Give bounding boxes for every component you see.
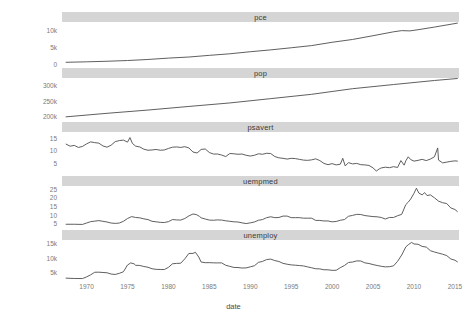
panel-strip-psavert: psavert <box>62 122 459 132</box>
panel-body-pop <box>62 78 459 118</box>
panel-body-unemploy <box>62 240 459 280</box>
y-tick-pop-2: 300k <box>0 81 57 88</box>
x-axis-title: date <box>0 302 467 311</box>
y-tick-uempmed-4: 25 <box>0 185 57 192</box>
facet-line-chart: date pce05k10kpop200k250k300kpsavert5101… <box>0 0 467 313</box>
x-tick-1995: 1995 <box>284 283 298 290</box>
panel-strip-uempmed: uempmed <box>62 176 459 186</box>
series-line-pop <box>66 79 457 117</box>
panel-strip-pop: pop <box>62 68 459 78</box>
y-tick-pop-1: 250k <box>0 97 57 104</box>
y-tick-pce-1: 5k <box>0 44 57 51</box>
y-tick-pop-0: 200k <box>0 113 57 120</box>
y-tick-unemploy-1: 10k <box>0 254 57 261</box>
x-tick-2010: 2010 <box>407 283 421 290</box>
y-tick-uempmed-3: 20 <box>0 194 57 201</box>
panel-label-uempmed: uempmed <box>243 177 278 186</box>
panel-strip-pce: pce <box>62 12 459 22</box>
y-tick-uempmed-1: 10 <box>0 211 57 218</box>
x-tick-1975: 1975 <box>120 283 134 290</box>
series-line-pce <box>66 23 457 62</box>
series-line-psavert <box>66 138 457 171</box>
y-tick-psavert-2: 15 <box>0 134 57 141</box>
y-tick-psavert-1: 10 <box>0 147 57 154</box>
series-line-unemploy <box>66 242 457 278</box>
series-line-uempmed <box>66 188 457 224</box>
x-tick-2000: 2000 <box>325 283 339 290</box>
y-tick-uempmed-2: 15 <box>0 203 57 210</box>
panel-label-pop: pop <box>254 69 267 78</box>
y-tick-unemploy-2: 15k <box>0 240 57 247</box>
y-tick-pce-0: 0 <box>0 61 57 68</box>
panel-body-psavert <box>62 132 459 172</box>
y-tick-pce-2: 10k <box>0 27 57 34</box>
panel-label-psavert: psavert <box>248 123 274 132</box>
panel-strip-unemploy: unemploy <box>62 230 459 240</box>
x-tick-1970: 1970 <box>79 283 93 290</box>
x-tick-1985: 1985 <box>202 283 216 290</box>
x-tick-1980: 1980 <box>161 283 175 290</box>
x-tick-2005: 2005 <box>366 283 380 290</box>
y-tick-psavert-0: 5 <box>0 160 57 167</box>
panel-body-uempmed <box>62 186 459 226</box>
y-tick-unemploy-0: 5k <box>0 269 57 276</box>
x-tick-1990: 1990 <box>243 283 257 290</box>
y-tick-uempmed-0: 5 <box>0 220 57 227</box>
x-tick-2015: 2015 <box>448 283 462 290</box>
panel-label-unemploy: unemploy <box>243 231 277 240</box>
panel-label-pce: pce <box>254 13 267 22</box>
panel-body-pce <box>62 22 459 64</box>
